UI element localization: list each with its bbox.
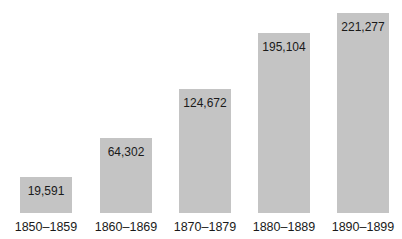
bar-1860-1869: 64,302 (100, 138, 152, 213)
bar-1850-1859: 19,591 (20, 177, 72, 213)
category-label: 1860–1869 (86, 220, 166, 234)
category-label: 1850–1859 (6, 220, 86, 234)
bar-value-label: 19,591 (20, 184, 72, 198)
category-label: 1890–1899 (323, 220, 402, 234)
bar-value-label: 124,672 (179, 96, 231, 110)
bar-chart: 19,591 64,302 124,672 195,104 221,277 18… (0, 0, 402, 239)
category-label: 1870–1879 (165, 220, 245, 234)
bar-value-label: 195,104 (258, 40, 310, 54)
bar-1870-1879: 124,672 (179, 89, 231, 213)
bar-1880-1889: 195,104 (258, 33, 310, 213)
bar-1890-1899: 221,277 (337, 13, 389, 213)
category-label: 1880–1889 (244, 220, 324, 234)
bar-value-label: 221,277 (337, 20, 389, 34)
bar-value-label: 64,302 (100, 145, 152, 159)
